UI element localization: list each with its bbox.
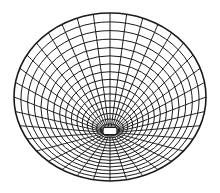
meridian-line — [36, 43, 104, 129]
mesh-lines — [14, 13, 206, 181]
ellipsoid-mesh — [0, 0, 220, 193]
meridian-line — [115, 43, 183, 129]
wireframe-ellipsoid-figure: Wireframe mesh of an ellipsoid viewed ob… — [0, 0, 220, 193]
meridian-line — [112, 18, 142, 128]
meridian-line — [77, 18, 107, 128]
pole-opening — [103, 128, 117, 135]
